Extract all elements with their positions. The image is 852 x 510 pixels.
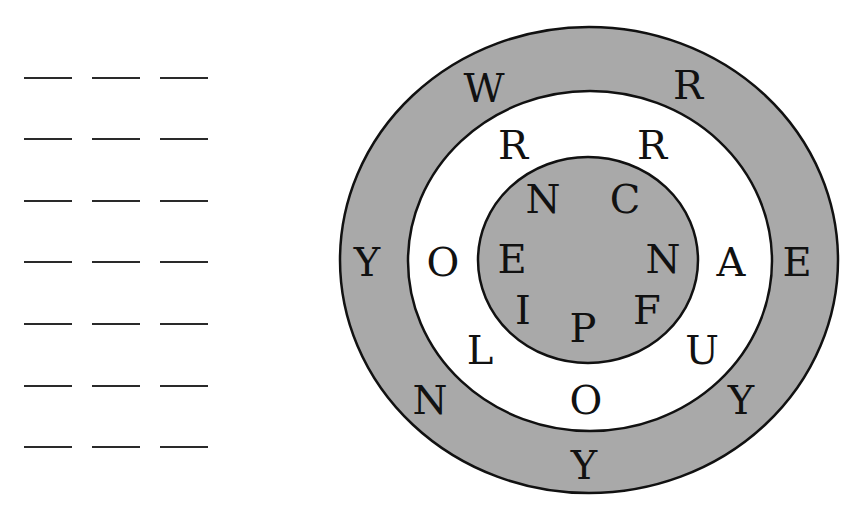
inner-ring-letter: N: [526, 176, 561, 222]
inner-ring-letter: F: [633, 287, 661, 333]
inner-ring-letter: P: [570, 305, 597, 351]
outer-ring-letter: E: [782, 239, 811, 285]
outer-ring-letter: N: [413, 377, 448, 423]
outer-ring-letter: W: [463, 65, 504, 111]
inner-ring-letter: C: [610, 176, 641, 222]
middle-ring-letter: O: [427, 239, 460, 285]
inner-ring-letter: N: [646, 236, 681, 282]
middle-ring-letter: R: [637, 122, 669, 168]
outer-ring-letter: Y: [570, 442, 598, 488]
middle-ring-letter: L: [467, 327, 494, 373]
letter-wheel: WRYENYY RROALUO NCENIFP: [0, 0, 852, 510]
middle-ring-letter: U: [685, 327, 719, 373]
inner-ring-letter: I: [515, 287, 531, 333]
inner-ring-letter: E: [497, 236, 526, 282]
middle-ring-letter: O: [570, 377, 603, 423]
outer-ring-letter: Y: [727, 377, 755, 423]
outer-ring-letter: Y: [353, 239, 381, 285]
middle-ring-letter: A: [716, 239, 747, 285]
outer-ring-letter: R: [673, 62, 705, 108]
middle-ring-letter: R: [498, 122, 530, 168]
